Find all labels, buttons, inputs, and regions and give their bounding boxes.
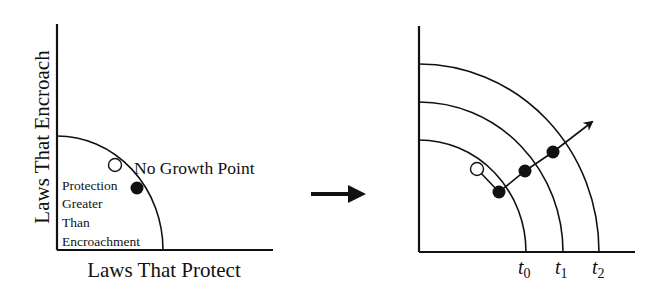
label-t0: t0 (518, 256, 531, 281)
point-t0 (493, 186, 506, 199)
label-t1: t1 (555, 256, 568, 281)
diagram-canvas: No Growth Point Protection Greater Than … (0, 0, 663, 294)
growth-arrow (553, 122, 592, 152)
right-open-point (471, 163, 484, 176)
right-panel: t0 t1 t2 (419, 26, 635, 281)
region-label-line-3: Than (62, 215, 90, 230)
frontier-curve-t2 (419, 64, 599, 252)
left-frontier-curve (57, 136, 163, 250)
region-label-line-1: Protection (62, 178, 118, 193)
region-label-line-4: Encroachment (62, 234, 140, 249)
no-growth-point-label: No Growth Point (134, 158, 255, 178)
protection-greater-point-marker (131, 182, 144, 195)
point-t1 (519, 165, 532, 178)
left-x-axis-label: Laws That Protect (87, 258, 241, 282)
left-panel: No Growth Point Protection Greater Than … (30, 24, 273, 282)
point-t2 (547, 146, 560, 159)
label-t2: t2 (592, 256, 605, 281)
region-label-line-2: Greater (62, 196, 103, 211)
no-growth-point-marker (109, 159, 122, 172)
frontier-curve-t0 (419, 140, 526, 252)
frontier-curve-t1 (419, 102, 563, 252)
transition-arrow (311, 185, 366, 203)
left-y-axis-label: Laws That Encroach (30, 50, 54, 224)
